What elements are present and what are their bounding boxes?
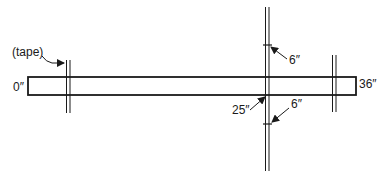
tape-right bbox=[333, 55, 337, 112]
offset-bottom-label: 6″ bbox=[291, 98, 302, 110]
arrow-offset-top bbox=[271, 47, 287, 59]
measurement-diagram: (tape) 0″ 36″ 6″ 25″ 6″ bbox=[0, 0, 385, 179]
start-measure-label: 0″ bbox=[13, 81, 24, 93]
board bbox=[28, 77, 356, 95]
end-measure-label: 36″ bbox=[359, 78, 377, 90]
arrow-tape-label bbox=[42, 56, 64, 63]
tape-middle bbox=[266, 7, 270, 171]
tape-label: (tape) bbox=[12, 46, 43, 58]
arrow-mark-position bbox=[250, 97, 265, 110]
offset-top-label: 6″ bbox=[289, 54, 300, 66]
mark-position-label: 25″ bbox=[232, 104, 250, 116]
diagram-canvas bbox=[0, 0, 385, 179]
tape-left bbox=[67, 60, 71, 113]
arrow-offset-bottom bbox=[272, 108, 289, 122]
